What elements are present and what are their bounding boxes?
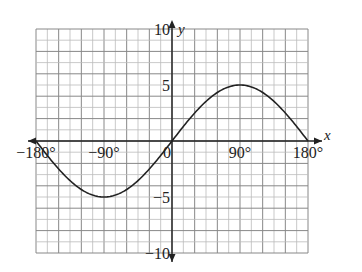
sine-graph: x y −180°−90°090°180°105−5−10 (0, 0, 362, 272)
x-tick-label: 0 (163, 144, 171, 161)
y-axis-label: y (176, 21, 185, 37)
y-tick-label: 5 (162, 77, 170, 94)
x-axis-label: x (323, 127, 331, 143)
x-tick-label: −90° (88, 144, 119, 161)
axes (28, 20, 322, 262)
x-tick-label: −180° (16, 144, 55, 161)
x-tick-label: 180° (293, 144, 323, 161)
y-tick-label: 10 (154, 21, 170, 38)
x-tick-label: 90° (229, 144, 251, 161)
y-tick-label: −10 (145, 245, 170, 262)
y-tick-label: −5 (153, 189, 170, 206)
